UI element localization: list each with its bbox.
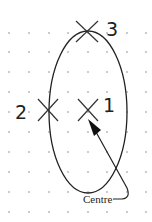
grid-dot <box>8 131 10 133</box>
grid-dot <box>87 51 89 53</box>
grid-dot <box>126 151 128 153</box>
grid-dot <box>28 211 30 213</box>
grid-dot <box>48 71 50 73</box>
diagram-canvas: 3 2 1 Centre <box>0 0 152 222</box>
grid-dot <box>48 51 50 53</box>
grid-dot <box>8 171 10 173</box>
grid-dot <box>8 91 10 93</box>
grid-dot <box>48 151 50 153</box>
grid-dot <box>8 211 10 213</box>
grid-dot <box>48 211 50 213</box>
grid-dot <box>87 71 89 73</box>
grid-dot <box>67 91 69 93</box>
grid-dot <box>67 32 69 34</box>
point-label-3: 3 <box>106 18 118 40</box>
grid-dot <box>87 151 89 153</box>
grid-dot <box>126 71 128 73</box>
grid-dot <box>87 171 89 173</box>
grid-dot <box>145 111 147 113</box>
grid-dot <box>145 91 147 93</box>
grid-dot <box>28 151 30 153</box>
grid-dot <box>28 131 30 133</box>
grid-dot <box>48 171 50 173</box>
grid-dot <box>8 51 10 53</box>
centre-label: Centre <box>83 193 112 205</box>
grid-dot <box>67 211 69 213</box>
grid-dot <box>8 71 10 73</box>
grid-dot <box>28 171 30 173</box>
grid-dot <box>106 211 108 213</box>
grid-dot <box>145 32 147 34</box>
grid-dot <box>87 131 89 133</box>
grid-dot <box>106 131 108 133</box>
grid-dot <box>8 151 10 153</box>
arrowhead-icon <box>88 119 101 136</box>
grid-dot <box>48 191 50 193</box>
cross-point-2 <box>38 99 58 121</box>
grid-dot <box>126 171 128 173</box>
grid-dot <box>106 91 108 93</box>
grid-dot <box>28 191 30 193</box>
grid-dot <box>126 51 128 53</box>
grid-dot <box>28 32 30 34</box>
grid-dot <box>145 71 147 73</box>
grid-dot <box>28 51 30 53</box>
grid-dot <box>106 71 108 73</box>
grid-dot <box>145 191 147 193</box>
grid-dot <box>67 111 69 113</box>
grid-dot <box>8 111 10 113</box>
diagram-svg: 3 2 1 Centre <box>0 0 152 222</box>
grid-dot <box>67 171 69 173</box>
grid-dot <box>67 71 69 73</box>
grid-dot <box>145 51 147 53</box>
grid-dot <box>48 32 50 34</box>
cross-point-1 <box>78 99 98 121</box>
grid-dot <box>106 51 108 53</box>
grid-dot <box>145 131 147 133</box>
grid-dot <box>28 111 30 113</box>
grid-dot <box>8 32 10 34</box>
grid-dot <box>67 151 69 153</box>
grid-dot <box>106 171 108 173</box>
grid-dot <box>145 211 147 213</box>
grid-dot <box>145 171 147 173</box>
grid-dot <box>126 211 128 213</box>
point-label-1: 1 <box>103 94 115 116</box>
grid-dot <box>67 131 69 133</box>
grid-dot <box>8 191 10 193</box>
grid-dot <box>126 32 128 34</box>
grid-dot <box>28 71 30 73</box>
grid-dot <box>145 151 147 153</box>
grid-dot <box>67 191 69 193</box>
grid-dot <box>28 91 30 93</box>
grid-dot <box>67 51 69 53</box>
grid-dot <box>87 211 89 213</box>
grid-dot <box>87 91 89 93</box>
point-label-2: 2 <box>15 101 27 123</box>
